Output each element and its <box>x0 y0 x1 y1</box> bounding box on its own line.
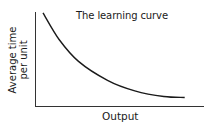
x-axis-label: Output <box>102 110 138 122</box>
learning-curve-line <box>43 13 185 98</box>
learning-curve-chart: The learning curve Average time per unit… <box>0 0 212 129</box>
